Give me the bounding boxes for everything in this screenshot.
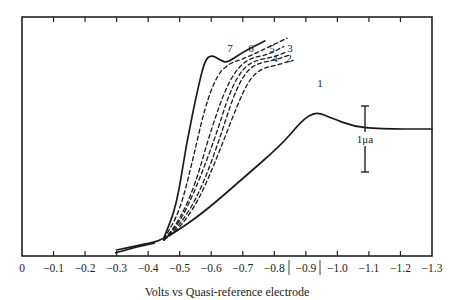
- x-tick-label: −0.8: [264, 262, 285, 274]
- curve-6: [164, 38, 287, 239]
- curve-label-6: 6: [248, 42, 254, 54]
- curve-label-7: 7: [227, 42, 233, 54]
- curve-4: [164, 52, 287, 240]
- x-tick-label: −0.5: [169, 262, 190, 274]
- x-axis-title: Volts vs Quasi-reference electrode: [145, 285, 310, 299]
- curve-label-1: 1: [317, 77, 323, 89]
- x-tick-label: −0.6: [201, 262, 222, 274]
- curve-1: [117, 113, 432, 250]
- baseline-foot: [115, 243, 155, 253]
- x-tick-label: −0.3: [106, 262, 127, 274]
- curve-5: [164, 47, 284, 241]
- x-axis-tick-labels: 0−0.1−0.2−0.3−0.4−0.5−0.6−0.7−0.8−0.9−1.…: [19, 262, 443, 274]
- x-tick-label: −1.0: [327, 262, 348, 274]
- x-tick-label: −1.1: [358, 262, 379, 274]
- x-tick-label: −0.4: [138, 262, 159, 274]
- x-tick-label: −0.7: [232, 262, 253, 274]
- x-tick-label: 0: [19, 262, 25, 274]
- x-tick-label: −1.2: [390, 262, 411, 274]
- x-tick-label: −1.3: [422, 262, 443, 274]
- curve-label-3: 3: [287, 42, 293, 54]
- x-tick-label: −0.2: [75, 262, 96, 274]
- x-tick-label: −0.1: [43, 262, 64, 274]
- scale-bar-label: 1μa: [357, 133, 373, 145]
- x-tick-label: −0.9: [295, 262, 316, 274]
- curves: [117, 38, 432, 250]
- curve-label-5: 5: [269, 42, 275, 54]
- polarogram-chart: 0−0.1−0.2−0.3−0.4−0.5−0.6−0.7−0.8−0.9−1.…: [0, 0, 463, 300]
- curve-3: [164, 55, 290, 240]
